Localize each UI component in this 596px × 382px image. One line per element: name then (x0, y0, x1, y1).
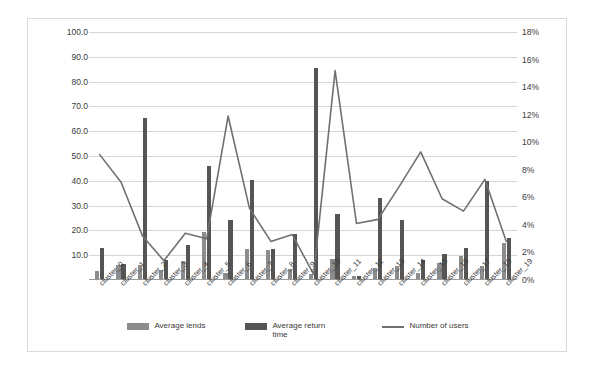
y-axis-right-tick: 6% (522, 193, 534, 202)
bar-group (389, 32, 410, 280)
bar-average-return-time (228, 220, 232, 280)
y-axis-right-tick: 0% (522, 276, 534, 285)
legend-label-average-lends: Average lends (154, 321, 205, 330)
y-axis-right-tick: 18% (522, 28, 539, 37)
legend-item-average-lends[interactable]: Average lends (127, 321, 205, 330)
bar-group (474, 32, 495, 280)
y-axis-right-tick: 16% (522, 56, 539, 65)
y-axis-right-tick: 10% (522, 138, 539, 147)
bar-swatch-lends-icon (127, 323, 149, 330)
y-axis-left-tick: 60.0 (71, 127, 88, 136)
bar-group (89, 32, 110, 280)
y-axis-left-tick: 50.0 (71, 152, 88, 161)
bar-group (110, 32, 131, 280)
bar-group (431, 32, 452, 280)
y-axis-left-tick: 10.0 (71, 251, 88, 260)
bar-average-return-time (143, 118, 147, 280)
chart-legend: Average lends Average return time Number… (28, 321, 568, 339)
bar-group (175, 32, 196, 280)
bar-group (410, 32, 431, 280)
y-axis-left-tick: 90.0 (71, 53, 88, 62)
y-axis-left: 10.020.030.040.050.060.070.080.090.0100.… (56, 32, 88, 280)
bar-group (367, 32, 388, 280)
y-axis-right-tick: 14% (522, 83, 539, 92)
line-swatch-users-icon (382, 326, 404, 328)
legend-label-average-return-time: Average return time (272, 321, 342, 339)
y-axis-right-tick: 8% (522, 166, 534, 175)
bar-average-return-time (335, 214, 339, 280)
y-axis-left-tick: 70.0 (71, 102, 88, 111)
bar-group (260, 32, 281, 280)
legend-item-average-return-time[interactable]: Average return time (245, 321, 342, 339)
bar-swatch-return-icon (245, 323, 267, 330)
bar-group (239, 32, 260, 280)
bar-group (303, 32, 324, 280)
y-axis-left-tick: 30.0 (71, 202, 88, 211)
legend-item-number-of-users[interactable]: Number of users (382, 321, 468, 330)
bar-group (132, 32, 153, 280)
y-axis-left-tick: 100.0 (67, 28, 88, 37)
bar-group (153, 32, 174, 280)
bar-group (453, 32, 474, 280)
y-axis-right-tick: 4% (522, 221, 534, 230)
bar-average-return-time (400, 220, 404, 280)
bar-group (217, 32, 238, 280)
y-axis-right: 0%2%4%6%8%10%12%14%16%18% (522, 32, 558, 280)
legend-label-number-of-users: Number of users (409, 321, 468, 330)
bar-group (496, 32, 517, 280)
bar-group (346, 32, 367, 280)
y-axis-left-tick: 80.0 (71, 78, 88, 87)
y-axis-left-tick: 40.0 (71, 177, 88, 186)
y-axis-right-tick: 12% (522, 111, 539, 120)
chart-container: 10.020.030.040.050.060.070.080.090.0100.… (27, 18, 567, 352)
bar-group (282, 32, 303, 280)
y-axis-left-tick: 20.0 (71, 226, 88, 235)
bar-group (196, 32, 217, 280)
bar-average-return-time (314, 68, 318, 280)
bar-group (324, 32, 345, 280)
plot-area (89, 32, 517, 280)
